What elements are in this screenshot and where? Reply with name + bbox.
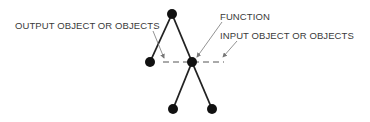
output-label: OUTPUT OBJECT OR OBJECTS <box>15 21 160 31</box>
edge-function-to-bottom-right <box>192 62 212 109</box>
diagram-canvas: OUTPUT OBJECT OR OBJECTS FUNCTION INPUT … <box>0 0 370 122</box>
node-bottom-right <box>207 104 217 114</box>
edge-function-to-bottom-left <box>173 62 192 109</box>
input-arrow <box>223 41 237 57</box>
input-label: INPUT OBJECT OR OBJECTS <box>220 31 354 41</box>
node-top <box>167 9 177 19</box>
diagram-graphic <box>0 0 370 122</box>
node-output <box>145 57 155 67</box>
node-bottom-left <box>168 104 178 114</box>
function-label: FUNCTION <box>220 12 270 22</box>
node-function <box>187 57 197 67</box>
edge-top-to-function <box>172 14 192 62</box>
function-arrow <box>197 22 222 57</box>
